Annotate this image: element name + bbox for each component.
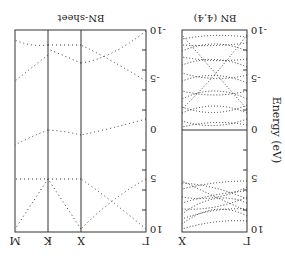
k-label-gamma: Γ xyxy=(243,234,251,247)
svg-text:-10: -10 xyxy=(251,25,267,36)
svg-text:5: 5 xyxy=(150,173,156,184)
figure-canvas: Energy (eV) -10 -5 0 5 10 -10 -5 0 5 10 xyxy=(0,0,285,259)
svg-text:-5: -5 xyxy=(251,73,261,84)
k-label-x: X xyxy=(178,234,186,247)
panel-title-bn-44: BN (4,4) xyxy=(193,13,236,24)
panel-bn-sheet: Γ X K M BN-sheet xyxy=(9,13,149,247)
band-structure-figure: Energy (eV) -10 -5 0 5 10 -10 -5 0 5 10 xyxy=(0,0,285,259)
y-axis-label: Energy (eV) xyxy=(270,97,283,164)
svg-text:10: 10 xyxy=(150,224,163,235)
svg-text:0: 0 xyxy=(251,124,257,135)
panel-bn-44: Γ X BN (4,4) xyxy=(178,13,251,247)
svg-text:10: 10 xyxy=(251,224,264,235)
svg-text:5: 5 xyxy=(251,173,257,184)
k-label-gamma: Γ xyxy=(142,234,150,247)
k-label-x: X xyxy=(77,234,85,247)
svg-text:-10: -10 xyxy=(150,25,166,36)
k-label-k: K xyxy=(43,234,52,247)
svg-text:-5: -5 xyxy=(150,73,160,84)
panel-title-bn-sheet: BN-sheet xyxy=(58,13,105,24)
k-label-m: M xyxy=(9,234,20,247)
y-tick-labels-mid: -10 -5 0 5 10 xyxy=(150,25,166,235)
svg-text:0: 0 xyxy=(150,124,156,135)
y-tick-labels-left: -10 -5 0 5 10 xyxy=(251,25,267,235)
